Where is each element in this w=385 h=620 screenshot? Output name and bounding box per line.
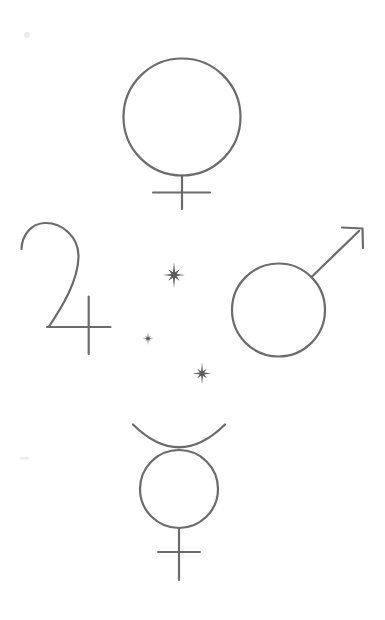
illustration-canvas — [0, 0, 385, 620]
background — [0, 0, 385, 620]
illustration — [0, 0, 385, 620]
smudge-artifact — [24, 32, 30, 38]
smudge-artifact — [20, 457, 29, 460]
